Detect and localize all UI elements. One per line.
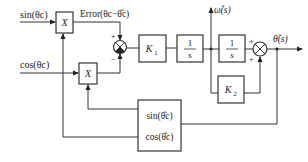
mult2-summer1-wire	[97, 54, 120, 73]
k2-label: K	[224, 84, 233, 95]
omega-k2-wire	[211, 49, 218, 93]
cos-input-label: cos(θc)	[20, 59, 49, 71]
multiplier-2-label: X	[84, 68, 92, 79]
sin-hat-to-mult2-wire	[88, 85, 138, 109]
k2-subscript: 2	[233, 90, 237, 98]
omega-hat-label: ω̂(s)	[214, 5, 231, 16]
summer-1-minus-sign: −	[111, 55, 116, 64]
multiplier-1-label: X	[60, 17, 68, 28]
integrator-1-denominator: s	[188, 50, 192, 60]
integrator-1-block: 1 s	[177, 35, 203, 62]
summer-2	[253, 42, 267, 56]
integrator-2-block: 1 s	[219, 35, 245, 62]
summer-1-plus-sign: +	[111, 32, 116, 41]
k1-label: K	[145, 43, 154, 54]
summer-2-plus-left: +	[249, 37, 254, 46]
trig-generator-block: sin(θ̂c) cos(θ̂c)	[138, 100, 181, 151]
error-label: Error(θc−θ̂c)	[80, 9, 129, 20]
integrator-2-numerator: 1	[230, 38, 235, 48]
multiplier-1-block: X	[56, 12, 73, 33]
cos-hat-to-mult1-wire	[63, 34, 138, 137]
multiplier-2-block: X	[79, 63, 97, 84]
summer-2-plus-bottom: +	[249, 55, 254, 64]
k1-block: K 1	[139, 35, 166, 62]
summer-1	[114, 41, 127, 54]
trig-sin-label: sin(θ̂c)	[146, 111, 172, 122]
theta-hat-label: θ̂(s)	[273, 34, 288, 45]
k1-subscript: 1	[154, 49, 158, 57]
integrator-1-numerator: 1	[188, 38, 193, 48]
k2-block: K 2	[218, 76, 244, 103]
block-diagram: sin(θc) X Error(θc−θ̂c) + − K 1 1 s ω̂(s…	[0, 0, 308, 162]
sin-input-label: sin(θc)	[20, 9, 48, 21]
trig-cos-label: cos(θ̂c)	[146, 132, 174, 143]
integrator-2-denominator: s	[230, 50, 234, 60]
